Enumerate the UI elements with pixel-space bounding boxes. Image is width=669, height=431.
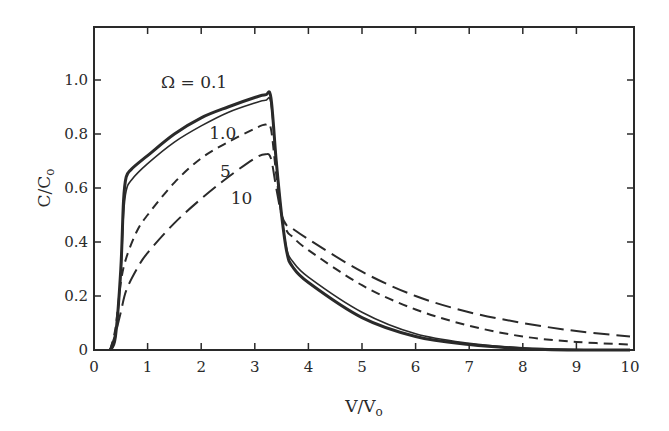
breakthrough-curve-chart: 012345678910 00.20.40.60.81.0 Ω = 0.11.0… (0, 0, 669, 431)
x-tick-label: 9 (572, 358, 582, 376)
x-tick-label: 3 (250, 358, 260, 376)
y-axis-label: C/Co (34, 169, 57, 208)
x-tick-label: 7 (464, 358, 474, 376)
series-line (110, 98, 630, 350)
y-tick-label: 0 (78, 341, 88, 359)
x-tick-label: 1 (143, 358, 153, 376)
x-axis-label: V/Vo (344, 396, 383, 419)
x-tick-label: 4 (304, 358, 314, 376)
y-tick-label: 0.2 (64, 287, 88, 305)
curve-label: 5 (220, 161, 231, 181)
x-tick-label: 0 (89, 358, 99, 376)
x-tick-label: 6 (411, 358, 421, 376)
data-series (110, 92, 630, 350)
x-tick-label: 10 (620, 358, 639, 376)
x-tick-label: 5 (357, 358, 367, 376)
curve-label: 1.0 (209, 123, 236, 143)
y-tick-label: 0.6 (64, 179, 88, 197)
x-tick-label: 2 (196, 358, 206, 376)
x-tick-label: 8 (518, 358, 528, 376)
y-axis-ticks: 00.20.40.60.81.0 (64, 71, 634, 359)
curve-annotations: Ω = 0.11.0510 (161, 72, 252, 208)
curve-label: 10 (231, 188, 253, 208)
y-tick-label: 1.0 (64, 71, 88, 89)
y-tick-label: 0.8 (64, 125, 88, 143)
curve-label: Ω = 0.1 (161, 72, 227, 92)
y-tick-label: 0.4 (64, 233, 88, 251)
series-line (110, 92, 630, 350)
